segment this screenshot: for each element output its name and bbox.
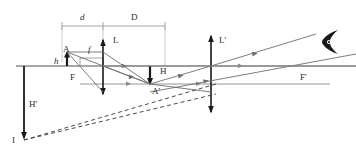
optics-diagram-canvas: d D L f A h F H A' L' F' H' I bbox=[0, 0, 356, 156]
label-I: I bbox=[12, 135, 15, 145]
lens-L-prime bbox=[208, 35, 214, 114]
label-d: d bbox=[80, 12, 85, 22]
label-F-prime: F' bbox=[300, 72, 307, 82]
ray-bundle-first-lens bbox=[67, 52, 150, 92]
optics-ray-diagram: d D L f A h F H A' L' F' H' I bbox=[0, 0, 356, 156]
label-L: L bbox=[113, 35, 119, 45]
ray-bundle-second-lens bbox=[103, 34, 356, 92]
label-A: A bbox=[63, 44, 70, 54]
virtual-image-arrow-H-prime bbox=[21, 66, 27, 140]
virtual-image-dashed-lines bbox=[24, 84, 216, 140]
label-D: D bbox=[131, 12, 138, 22]
label-H: H bbox=[160, 66, 167, 76]
label-L-prime: L' bbox=[219, 35, 226, 45]
label-h: h bbox=[54, 56, 59, 66]
label-H-prime: H' bbox=[29, 99, 37, 109]
eye-icon bbox=[322, 30, 338, 54]
label-F: F bbox=[70, 72, 75, 82]
label-A-prime: A' bbox=[152, 86, 160, 96]
label-f: f bbox=[88, 44, 92, 54]
